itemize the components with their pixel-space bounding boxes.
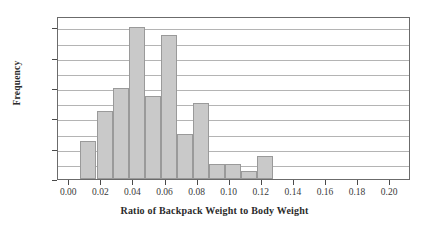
histogram-figure: Frequency 048121620 0.000.020.040.060.08…	[0, 0, 429, 230]
bar	[177, 134, 193, 179]
bar	[241, 171, 257, 179]
bar	[129, 27, 145, 179]
bar	[161, 35, 177, 179]
x-tick-0.02	[100, 180, 101, 185]
x-tick-label-0.20: 0.20	[369, 188, 409, 198]
bars-group	[58, 18, 409, 179]
bar	[193, 103, 209, 179]
x-tick-0.18	[357, 180, 358, 185]
bar	[80, 141, 96, 179]
x-tick-0.14	[293, 180, 294, 185]
x-tick-0.08	[197, 180, 198, 185]
x-axis-title: Ratio of Backpack Weight to Body Weight	[0, 205, 429, 216]
bar	[257, 156, 273, 179]
x-tick-0.12	[261, 180, 262, 185]
bar	[145, 96, 161, 179]
bar	[113, 88, 129, 179]
x-tick-0.10	[229, 180, 230, 185]
x-tick-0.20	[389, 180, 390, 185]
x-tick-0.16	[325, 180, 326, 185]
bar	[97, 111, 113, 179]
plot-area	[57, 17, 410, 180]
x-tick-0.04	[132, 180, 133, 185]
bar	[225, 164, 241, 179]
bar	[209, 164, 225, 179]
x-tick-0.06	[165, 180, 166, 185]
x-tick-0.00	[68, 180, 69, 185]
